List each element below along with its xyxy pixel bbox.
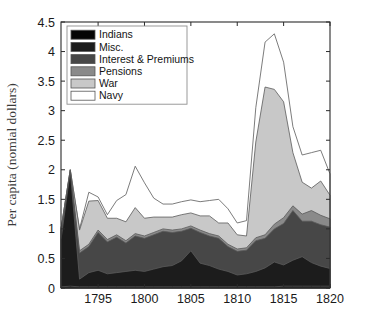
legend-swatch-indians bbox=[71, 30, 95, 39]
x-tick-label: 1800 bbox=[131, 292, 159, 306]
legend-swatch-misc bbox=[71, 42, 95, 51]
legend-label-navy: Navy bbox=[99, 89, 124, 101]
chart-legend: IndiansMisc.Interest & PremiumsPensionsW… bbox=[67, 26, 194, 104]
svg-text:Per capita (nomial dollars): Per capita (nomial dollars) bbox=[4, 83, 19, 227]
y-tick-label: 1.5 bbox=[38, 193, 55, 207]
x-tick-label: 1805 bbox=[177, 292, 205, 306]
y-tick-label: 3 bbox=[48, 104, 55, 118]
legend-label-interest-premiums: Interest & Premiums bbox=[99, 53, 194, 65]
y-tick-label: 3.5 bbox=[38, 75, 55, 89]
legend-swatch-navy bbox=[71, 91, 95, 100]
legend-swatch-war bbox=[71, 79, 95, 88]
y-axis-title: Per capita (nomial dollars) bbox=[4, 83, 19, 227]
legend-label-war: War bbox=[99, 77, 118, 89]
y-tick-label: 2.5 bbox=[38, 134, 55, 148]
y-tick-label: 0.5 bbox=[38, 252, 55, 266]
legend-label-indians: Indians bbox=[99, 28, 133, 40]
x-axis-tick-labels: 179518001805181018151820 bbox=[84, 292, 344, 306]
x-tick-label: 1795 bbox=[84, 292, 112, 306]
legend-swatch-interest-premiums bbox=[71, 55, 95, 64]
y-tick-label: 0 bbox=[48, 282, 55, 296]
legend-label-pensions: Pensions bbox=[99, 65, 142, 77]
x-tick-label: 1815 bbox=[270, 292, 298, 306]
y-tick-label: 1 bbox=[48, 222, 55, 236]
x-tick-label: 1810 bbox=[223, 292, 251, 306]
chart-figure: 179518001805181018151820 00.511.522.533.… bbox=[0, 0, 367, 327]
y-tick-label: 2 bbox=[48, 163, 55, 177]
legend-swatch-pensions bbox=[71, 67, 95, 76]
legend-label-misc: Misc. bbox=[99, 41, 124, 53]
stacked-area-chart: 179518001805181018151820 00.511.522.533.… bbox=[0, 0, 367, 327]
y-axis-tick-labels: 00.511.522.533.544.5 bbox=[38, 16, 55, 296]
x-tick-label: 1820 bbox=[316, 292, 344, 306]
y-tick-label: 4.5 bbox=[38, 16, 55, 30]
y-tick-label: 4 bbox=[48, 45, 55, 59]
